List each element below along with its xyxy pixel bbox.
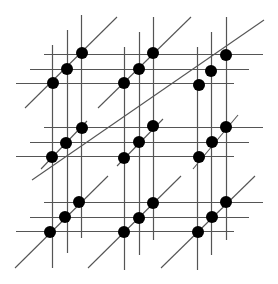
lattice-dot [206,211,218,223]
lattice-dot [133,136,145,148]
lattice-dot [147,197,159,209]
lattice-dot [192,226,204,238]
lattice-dot [59,211,71,223]
diagonal-line [88,176,181,268]
lattice-dot [133,212,145,224]
lattice-dot [118,152,130,164]
lattice-dot [206,136,218,148]
lattice-dot [46,151,58,163]
lattice-diagram-svg [0,0,278,284]
lattice-dot [76,47,88,59]
lattice-dot [147,120,159,132]
diagonal-line [25,17,117,108]
lattice-dot [118,226,130,238]
diagonal-line [161,176,255,268]
diagonal-line [98,17,191,108]
lattice-dot [44,226,56,238]
lattice-dot [118,77,130,89]
lattice-dot [193,151,205,163]
lattice-dot [61,63,73,75]
lattice-dot [220,196,232,208]
lattice-dot [147,47,159,59]
lattice-dot [205,65,217,77]
lattice-dot [76,122,88,134]
diagonal-line [15,176,108,268]
lattice-dot [220,49,232,61]
lattice-dot [73,196,85,208]
lattice-dot [60,137,72,149]
lattice-dot [193,79,205,91]
lattice-dot [220,121,232,133]
lattice-dot [47,77,59,89]
lattice-dot [133,63,145,75]
lattice-diagram [0,0,278,284]
